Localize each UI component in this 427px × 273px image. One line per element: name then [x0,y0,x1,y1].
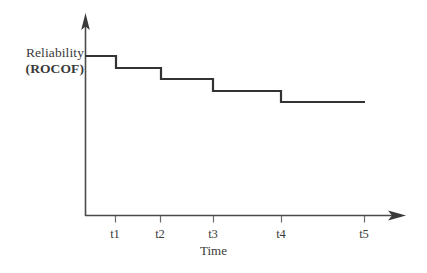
x-axis-ticks [116,216,365,223]
y-axis-label: Reliability (ROCOF) [16,46,84,75]
y-axis-label-line2: (ROCOF) [16,62,84,76]
rocof-step-series [85,56,365,102]
chart-figure: Reliability (ROCOF) t1 t2 t3 t4 t5 Time [0,0,427,273]
tick-label-t3: t3 [199,228,227,241]
tick-label-t2: t2 [146,228,174,241]
y-axis-label-line1: Reliability [16,46,84,60]
tick-label-t1: t1 [101,228,129,241]
x-axis-title: Time [0,244,427,257]
tick-label-t5: t5 [350,228,378,241]
tick-label-t4: t4 [267,228,295,241]
